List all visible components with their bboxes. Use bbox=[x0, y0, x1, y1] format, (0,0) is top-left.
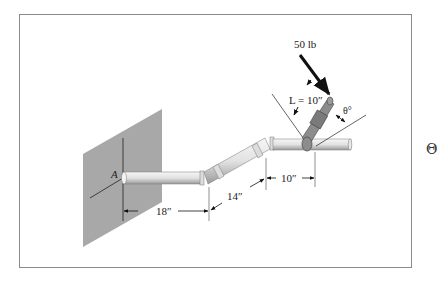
pipe-free-end bbox=[348, 139, 352, 150]
pipe-wrench-diagram: 50 lb L = 10″ θ° A 18″ 14″ 10″ bbox=[0, 0, 439, 286]
pipe-segment-2 bbox=[204, 138, 270, 184]
dim-14-arrow-lower bbox=[211, 203, 222, 210]
pipe-segment-1 bbox=[123, 172, 203, 184]
theta-arc-arrows bbox=[336, 115, 345, 122]
dim-14-arrow-upper bbox=[250, 179, 264, 187]
length-arrow-lower bbox=[294, 107, 298, 115]
angle-label: θ° bbox=[343, 105, 352, 116]
dim-18-label: 18″ bbox=[156, 205, 172, 217]
dim-10-label: 10″ bbox=[281, 172, 297, 184]
pipe-coupling-1 bbox=[200, 171, 204, 185]
force-label: 50 lb bbox=[294, 38, 317, 50]
length-arrow-upper bbox=[307, 80, 311, 85]
point-a-label: A bbox=[110, 168, 118, 180]
pipe-end-at-wall bbox=[122, 172, 127, 184]
theta-symbol: Θ bbox=[426, 141, 437, 157]
force-arrow bbox=[300, 55, 329, 94]
dim-14-label: 14″ bbox=[227, 190, 243, 202]
length-label: L = 10″ bbox=[289, 94, 323, 106]
